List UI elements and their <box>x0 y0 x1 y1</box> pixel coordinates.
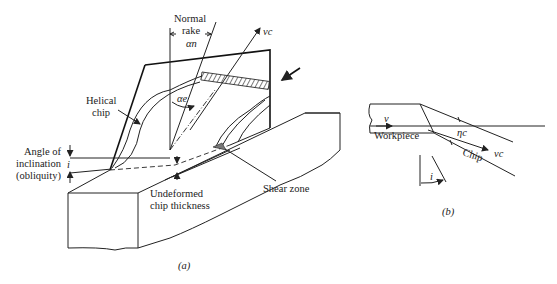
undeformed-label-2: chip thickness <box>150 200 210 211</box>
caption-a: (a) <box>178 260 191 272</box>
undeformed-thickness-arrows <box>165 148 240 180</box>
angle-inclination-label-3: (obliquity) <box>16 170 61 182</box>
i-symbol-a: i <box>67 159 70 170</box>
undeformed-label-1: Undeformed <box>150 188 204 199</box>
alpha-e-symbol: αe <box>177 93 188 104</box>
inclination-angle-arrows <box>70 145 112 183</box>
tool-rake-face <box>110 50 270 170</box>
angle-inclination-label-1: Angle of <box>24 146 62 157</box>
shear-zone-leader <box>225 149 276 181</box>
shear-zone-label: Shear zone <box>263 183 310 194</box>
chip-label: Chip <box>461 146 484 163</box>
figure-a: Normal rake αn vc αe Helical chip Angle … <box>16 13 340 272</box>
helical-chip <box>112 72 270 168</box>
figure-b: v Workpiece ηc Chip vc i (b) <box>369 104 545 218</box>
incl-line-b <box>432 156 446 182</box>
angle-inclination-label-2: inclination <box>16 158 62 169</box>
force-arrow <box>282 68 300 80</box>
helical-chip-label-1: Helical <box>86 95 116 106</box>
workpiece-block <box>68 113 340 250</box>
v-label: v <box>384 113 389 124</box>
vc-label-a: vc <box>263 26 273 37</box>
alpha-n-symbol: αn <box>186 38 197 49</box>
workpiece-label: Workpiece <box>374 130 420 141</box>
chip-hatched-band <box>201 72 269 89</box>
caption-b: (b) <box>442 206 455 218</box>
i-symbol-b: i <box>430 171 433 182</box>
vc-label-b: vc <box>494 148 504 159</box>
oblique-cutting-diagram: Normal rake αn vc αe Helical chip Angle … <box>0 0 557 284</box>
eta-c-label: ηc <box>457 127 467 138</box>
helical-chip-label-2: chip <box>92 107 110 118</box>
normal-rake-label-2: rake <box>182 25 200 36</box>
normal-rake-label-1: Normal <box>174 13 206 24</box>
